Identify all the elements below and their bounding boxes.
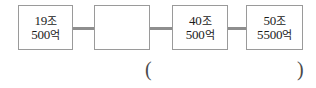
number-box-3: 40조 500억 xyxy=(172,5,228,50)
number-box-2-blank[interactable] xyxy=(94,5,150,50)
number-box-3-line-2-number: 500 xyxy=(186,27,205,42)
number-box-3-line-2: 500억 xyxy=(186,28,215,42)
number-box-1-line-2-unit: 억 xyxy=(50,29,60,42)
number-box-4-line-2-number: 5500 xyxy=(257,27,282,42)
number-box-1-line-2-number: 500 xyxy=(31,27,50,42)
connector-line-2 xyxy=(148,27,174,30)
number-box-1-line-1: 19조 xyxy=(34,14,56,28)
answer-open-paren: ( xyxy=(145,58,152,81)
number-box-4-line-1: 50조 xyxy=(263,14,285,28)
number-box-1: 19조 500억 xyxy=(18,5,73,50)
number-box-4-line-2: 5500억 xyxy=(257,28,292,42)
number-box-3-line-1: 40조 xyxy=(189,14,211,28)
number-box-4-line-2-unit: 억 xyxy=(282,29,292,42)
number-box-3-line-2-unit: 억 xyxy=(205,29,215,42)
answer-blank-row[interactable]: ( ) xyxy=(0,58,316,84)
worksheet-diagram: 19조 500억 40조 500억 50조 5500억 ( ) xyxy=(0,0,316,88)
connector-line-3 xyxy=(226,27,248,30)
answer-close-paren: ) xyxy=(297,58,304,81)
connector-line-1 xyxy=(71,27,96,30)
number-box-1-line-2: 500억 xyxy=(31,28,60,42)
number-box-4: 50조 5500억 xyxy=(246,5,303,50)
